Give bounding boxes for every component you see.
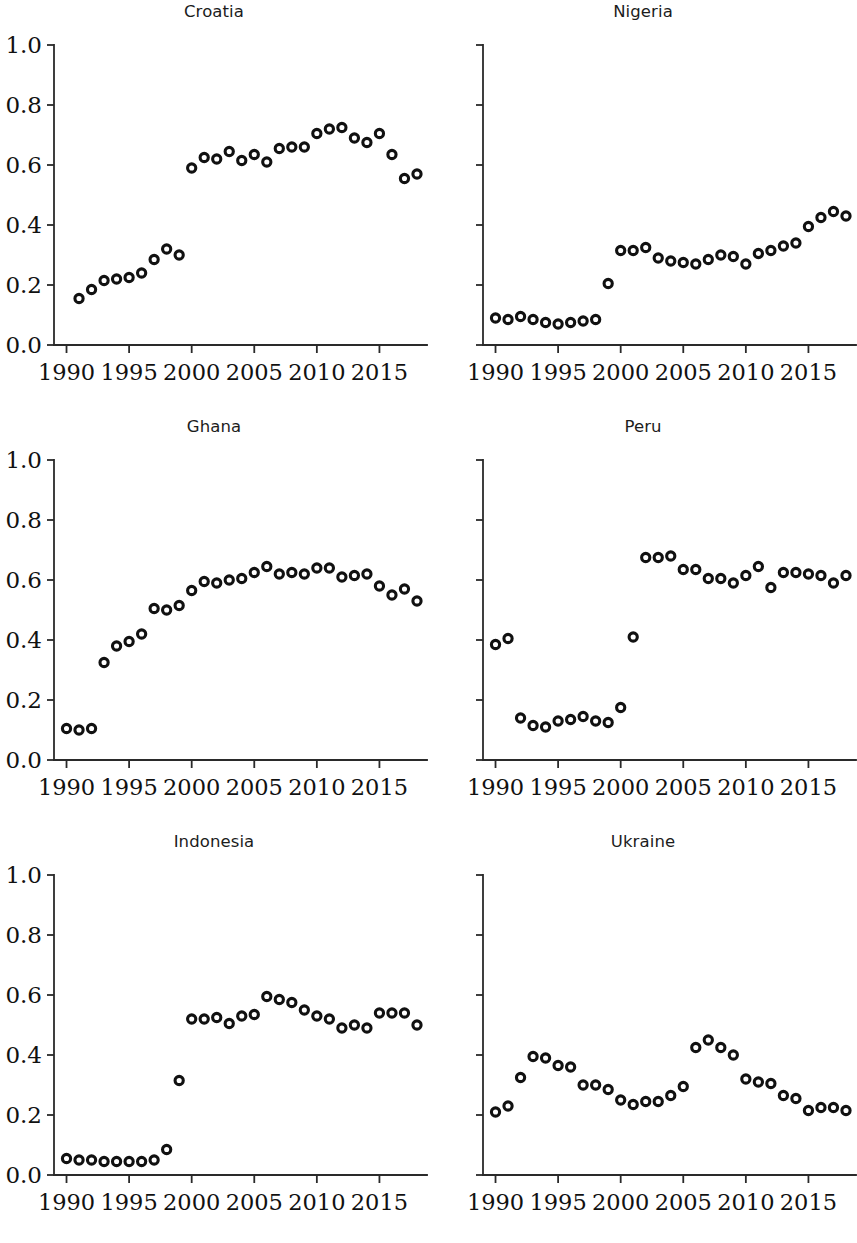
data-point [238, 1012, 246, 1020]
data-point [617, 1096, 625, 1104]
data-point [288, 143, 296, 151]
data-point [338, 1024, 346, 1032]
panel-croatia: Croatia0.00.20.40.60.81.0199019952000200… [0, 0, 428, 414]
data-point [792, 239, 800, 247]
data-point [617, 246, 625, 254]
data-point [842, 1106, 850, 1114]
data-point [491, 314, 499, 322]
x-tick-label: 2010 [717, 774, 774, 800]
data-series [62, 992, 421, 1165]
data-point [704, 574, 712, 582]
data-point [350, 571, 358, 579]
data-point [62, 1154, 70, 1162]
data-point [363, 1024, 371, 1032]
data-point [250, 568, 258, 576]
data-point [87, 285, 95, 293]
data-point [642, 243, 650, 251]
data-point [325, 125, 333, 133]
data-point [150, 604, 158, 612]
data-point [667, 552, 675, 560]
scatter-plot-croatia: 0.00.20.40.60.81.01990199520002005201020… [0, 0, 428, 414]
data-point [313, 1012, 321, 1020]
data-point [388, 1009, 396, 1017]
data-point [250, 1010, 258, 1018]
data-point [150, 255, 158, 263]
data-point [150, 1156, 158, 1164]
panel-indonesia: Indonesia0.00.20.40.60.81.01990199520002… [0, 830, 428, 1243]
data-point [604, 1085, 612, 1093]
x-tick-label: 1995 [100, 1189, 157, 1215]
data-point [363, 138, 371, 146]
data-point [842, 571, 850, 579]
data-point [413, 597, 421, 605]
data-point [779, 568, 787, 576]
data-point [541, 723, 549, 731]
data-point [804, 1106, 812, 1114]
data-point [817, 1103, 825, 1111]
y-tick-label: 1.0 [5, 447, 42, 473]
data-point [804, 570, 812, 578]
data-point [491, 640, 499, 648]
x-tick-label: 2005 [655, 1189, 712, 1215]
data-point [350, 134, 358, 142]
x-tick-label: 1990 [38, 774, 95, 800]
data-point [541, 318, 549, 326]
data-point [729, 579, 737, 587]
data-point [592, 717, 600, 725]
y-tick-label: 0.8 [5, 507, 42, 533]
data-point [742, 1075, 750, 1083]
data-point [554, 1061, 562, 1069]
data-point [112, 1157, 120, 1165]
data-point [579, 317, 587, 325]
data-point [350, 1021, 358, 1029]
data-point [717, 251, 725, 259]
data-point [729, 1051, 737, 1059]
data-point [388, 591, 396, 599]
data-point [313, 129, 321, 137]
data-point [75, 1156, 83, 1164]
y-tick-label: 0.0 [5, 747, 42, 773]
data-point [125, 1157, 133, 1165]
scatter-plot-indonesia: 0.00.20.40.60.81.01990199520002005201020… [0, 830, 428, 1243]
data-point [516, 1073, 524, 1081]
data-point [200, 153, 208, 161]
y-tick-label: 0.6 [5, 982, 42, 1008]
y-tick-label: 0.4 [5, 627, 42, 653]
data-point [388, 150, 396, 158]
data-series [491, 1036, 850, 1116]
x-tick-label: 1995 [100, 359, 157, 385]
data-point [667, 1091, 675, 1099]
data-point [617, 703, 625, 711]
data-point [375, 1009, 383, 1017]
y-tick-label: 0.2 [5, 1102, 42, 1128]
data-point [704, 1036, 712, 1044]
y-tick-label: 0.2 [5, 272, 42, 298]
panel-nigeria: Nigeria199019952000200520102015 [429, 0, 857, 414]
x-tick-label: 2015 [780, 359, 837, 385]
x-tick-label: 2015 [351, 774, 408, 800]
x-tick-label: 2005 [655, 774, 712, 800]
data-point [829, 579, 837, 587]
data-point [275, 995, 283, 1003]
x-tick-label: 2015 [780, 1189, 837, 1215]
data-point [400, 585, 408, 593]
data-point [592, 315, 600, 323]
y-tick-label: 0.0 [5, 1162, 42, 1188]
data-point [679, 1082, 687, 1090]
x-tick-label: 2005 [226, 359, 283, 385]
data-point [754, 249, 762, 257]
x-tick-label: 1995 [100, 774, 157, 800]
data-point [238, 156, 246, 164]
data-point [125, 273, 133, 281]
data-point [742, 260, 750, 268]
x-tick-label: 1995 [529, 774, 586, 800]
x-tick-label: 1990 [467, 1189, 524, 1215]
data-point [504, 1102, 512, 1110]
data-series [491, 552, 850, 731]
data-point [400, 174, 408, 182]
data-point [692, 565, 700, 573]
data-point [163, 245, 171, 253]
y-tick-label: 0.2 [5, 687, 42, 713]
data-point [767, 583, 775, 591]
data-point [817, 571, 825, 579]
